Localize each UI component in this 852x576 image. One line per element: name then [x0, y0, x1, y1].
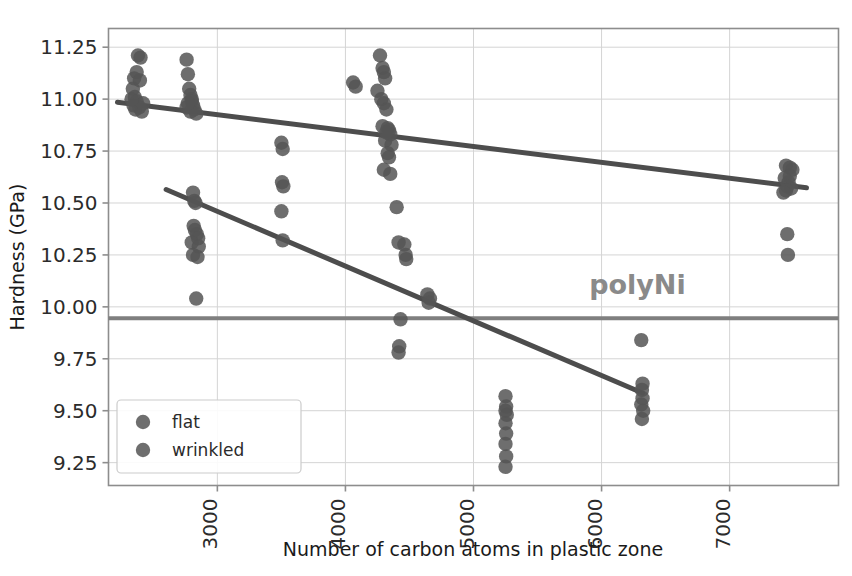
- point-wrinkled-13: [275, 142, 289, 156]
- y-tick-label-8: 11.25: [40, 35, 97, 59]
- y-tick-label-5: 10.50: [40, 191, 97, 215]
- legend-label-flat: flat: [172, 412, 200, 432]
- point-flat-13: [124, 92, 138, 106]
- point-wrinkled-25: [391, 345, 405, 359]
- point-wrinkled-38: [634, 333, 648, 347]
- point-wrinkled-28: [421, 296, 435, 310]
- point-flat-27: [348, 79, 362, 93]
- y-tick-label-6: 10.75: [40, 139, 97, 163]
- x-axis-title: Number of carbon atoms in plastic zone: [283, 538, 663, 560]
- annotation-label-0: polyNi: [589, 269, 686, 300]
- point-flat-42: [382, 150, 396, 164]
- y-tick-label-3: 10.00: [40, 295, 97, 319]
- legend-label-wrinkled: wrinkled: [172, 440, 244, 460]
- point-flat-28: [373, 48, 387, 62]
- point-wrinkled-44: [635, 412, 649, 426]
- scatter-plot: polyNi 30004000500060007000 9.259.509.75…: [0, 0, 852, 576]
- point-flat-55: [776, 185, 790, 199]
- annotations: polyNi: [589, 269, 686, 300]
- point-flat-35: [379, 102, 393, 116]
- chart-figure: polyNi 30004000500060007000 9.259.509.75…: [0, 0, 852, 576]
- point-wrinkled-35: [498, 437, 512, 451]
- chart-legend[interactable]: flatwrinkled: [117, 400, 301, 473]
- point-wrinkled-46: [781, 248, 795, 262]
- point-flat-31: [378, 71, 392, 85]
- point-flat-44: [383, 167, 397, 181]
- legend-marker-flat: [136, 415, 150, 429]
- x-tick-label-0: 3000: [198, 499, 222, 550]
- y-axis-title: Hardness (GPa): [6, 184, 28, 331]
- point-wrinkled-15: [276, 179, 290, 193]
- point-wrinkled-18: [389, 200, 403, 214]
- point-wrinkled-23: [393, 312, 407, 326]
- point-wrinkled-16: [274, 204, 288, 218]
- point-flat-15: [181, 67, 195, 81]
- y-tick-label-1: 9.50: [53, 399, 98, 423]
- y-tick-label-0: 9.25: [53, 451, 98, 475]
- point-wrinkled-17: [275, 233, 289, 247]
- y-tick-label-2: 9.75: [53, 347, 98, 371]
- legend-box[interactable]: [117, 400, 301, 473]
- point-flat-1: [133, 50, 147, 64]
- point-wrinkled-2: [188, 196, 202, 210]
- point-flat-46: [379, 125, 393, 139]
- point-wrinkled-37: [498, 460, 512, 474]
- point-flat-25: [181, 96, 195, 110]
- point-wrinkled-10: [190, 250, 204, 264]
- y-tick-label-4: 10.25: [40, 243, 97, 267]
- point-wrinkled-45: [780, 227, 794, 241]
- y-tick-label-7: 11.00: [40, 87, 97, 111]
- point-wrinkled-22: [399, 252, 413, 266]
- point-flat-56: [783, 169, 797, 183]
- point-wrinkled-11: [189, 291, 203, 305]
- point-flat-14: [179, 52, 193, 66]
- legend-marker-wrinkled: [136, 443, 150, 457]
- x-tick-label-4: 7000: [711, 499, 735, 550]
